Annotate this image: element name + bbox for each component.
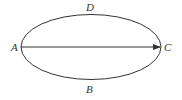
label-b: B	[86, 83, 93, 95]
ellipse-diagram: A C D B	[0, 0, 182, 100]
diagram-svg: A C D B	[0, 0, 182, 100]
label-a: A	[10, 41, 18, 53]
label-c: C	[164, 41, 172, 53]
label-d: D	[85, 1, 94, 13]
